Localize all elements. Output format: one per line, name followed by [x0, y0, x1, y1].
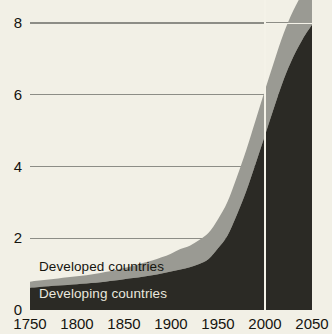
- y-axis-tick-label: 2: [2, 230, 22, 245]
- y-axis-tick-label: 8: [2, 15, 22, 30]
- x-axis-tick-label: 1900: [148, 316, 194, 332]
- x-axis-tick-label: 1950: [195, 316, 241, 332]
- population-area-chart: 0 2 4 6 8 1750 1800 1850 1900 1950 2000 …: [0, 0, 332, 334]
- x-axis-tick-label: 2050: [289, 316, 332, 332]
- chart-plot-area: [0, 0, 332, 334]
- x-axis-tick-label: 1850: [101, 316, 147, 332]
- y-axis-tick-label: 6: [2, 87, 22, 102]
- series-label-developing-countries: Developing countries: [39, 287, 167, 301]
- y-axis-tick-label: 4: [2, 159, 22, 174]
- x-axis-tick-label: 2000: [242, 316, 288, 332]
- x-axis-tick-label: 1750: [7, 316, 53, 332]
- x-axis-tick-label: 1800: [54, 316, 100, 332]
- series-label-developed-countries: Developed countries: [39, 260, 164, 274]
